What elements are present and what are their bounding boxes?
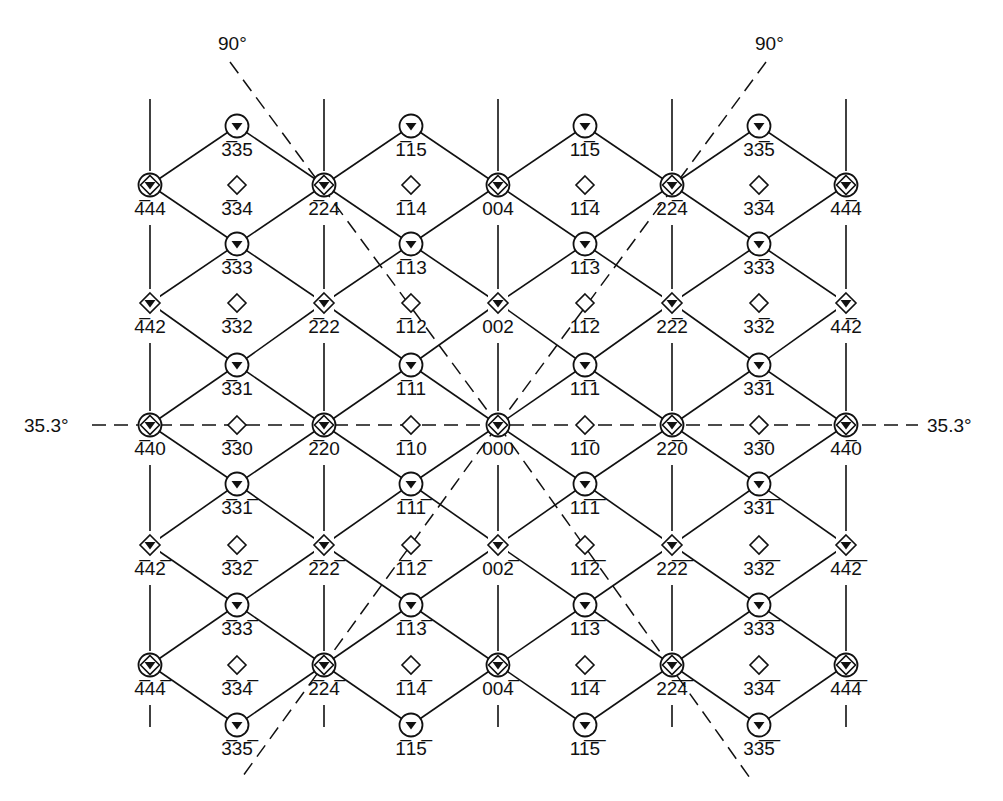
- spot-circle-triangle: [226, 473, 249, 496]
- diamond-icon: [228, 416, 246, 434]
- spot-double-ring: [487, 174, 510, 197]
- miller-index-label: 1̅11̅: [396, 497, 432, 518]
- miller-index-label: 33̅1: [743, 378, 775, 399]
- spot-open-diamond: [576, 416, 594, 434]
- spot-open-diamond: [402, 294, 420, 312]
- miller-index-label: 3̅32̅: [221, 558, 259, 579]
- spot-open-diamond: [750, 536, 768, 554]
- miller-index-label: 1̅12̅: [395, 558, 433, 579]
- spot-double-ring: [487, 414, 510, 437]
- spot-open-diamond: [402, 536, 420, 554]
- spot-open-diamond: [402, 656, 420, 674]
- miller-index-label: 1̅14̅: [395, 678, 433, 699]
- spot-circle-triangle: [748, 473, 771, 496]
- diamond-icon: [750, 176, 768, 194]
- spot-circle-triangle: [574, 115, 597, 138]
- miller-index-label: 000: [482, 438, 514, 459]
- miller-index-label: 11̅4̅: [570, 678, 606, 699]
- miller-index-label: 3̅33: [221, 257, 253, 278]
- spot-circle-triangle: [574, 714, 597, 737]
- miller-index-label: 11̅3: [570, 257, 600, 278]
- miller-index-label: 33̅5̅: [743, 738, 781, 759]
- spot-circle-triangle: [748, 115, 771, 138]
- spot-double-ring: [835, 414, 858, 437]
- miller-index-label: 11̅4: [570, 198, 601, 219]
- miller-index-label: 44̅0: [830, 438, 862, 459]
- miller-index-label: 2̅22: [308, 316, 340, 337]
- miller-index-label: 33̅1̅: [743, 497, 781, 518]
- miller-index-label: 1̅12: [395, 316, 427, 337]
- miller-index-label: 11̅5: [570, 139, 600, 160]
- spot-open-diamond: [750, 294, 768, 312]
- diamond-icon: [750, 294, 768, 312]
- spot-circle-triangle: [748, 594, 771, 617]
- spot-double-ring: [661, 174, 684, 197]
- spot-open-diamond: [228, 416, 246, 434]
- spot-open-diamond: [576, 176, 594, 194]
- miller-index-label: 33̅3̅: [743, 618, 781, 639]
- miller-index-label: 1̅15̅: [395, 738, 433, 759]
- spot-circle-triangle: [400, 354, 423, 377]
- spot-circle-triangle: [226, 594, 249, 617]
- miller-index-label: 11̅0: [570, 438, 600, 459]
- spot-open-diamond: [402, 416, 420, 434]
- diag-90-topright: [498, 62, 766, 425]
- spot-circle-triangle: [226, 354, 249, 377]
- miller-index-label: 33̅5: [743, 139, 775, 160]
- diamond-icon: [576, 416, 594, 434]
- miller-index-label: 3̅33̅: [221, 618, 259, 639]
- diamond-icon: [402, 416, 420, 434]
- miller-index-label: 33̅4̅: [743, 678, 781, 699]
- spot-circle-triangle: [226, 714, 249, 737]
- miller-index-label: 002̅: [482, 558, 520, 579]
- diamond-icon: [402, 536, 420, 554]
- diamond-icon: [750, 536, 768, 554]
- miller-index-label: 11̅1: [570, 378, 600, 399]
- spot-double-ring: [661, 654, 684, 677]
- miller-index-label: 44̅4̅: [830, 678, 868, 699]
- spot-circle-triangle: [748, 354, 771, 377]
- miller-index-label: 22̅4: [656, 198, 688, 219]
- spot-double-ring: [313, 654, 336, 677]
- spot-open-diamond: [750, 416, 768, 434]
- spot-circle-triangle: [748, 233, 771, 256]
- spot-open-diamond: [228, 176, 246, 194]
- spot-circle-triangle: [400, 594, 423, 617]
- miller-index-label: 3̅32: [221, 316, 253, 337]
- miller-index-label: 1̅10: [395, 438, 427, 459]
- spot-diamond-triangle: [314, 293, 334, 313]
- miller-index-label: 2̅24̅: [308, 678, 346, 699]
- spot-double-ring: [313, 414, 336, 437]
- miller-index-label: 11̅2: [570, 316, 600, 337]
- miller-index-label: 4̅44: [134, 198, 166, 219]
- spot-open-diamond: [402, 176, 420, 194]
- miller-index-label: 002: [482, 316, 514, 337]
- spot-diamond-triangle: [488, 293, 508, 313]
- diag-90-topleft: [230, 62, 498, 425]
- spot-diamond-triangle: [140, 535, 160, 555]
- diamond-icon: [750, 416, 768, 434]
- spot-double-ring: [139, 174, 162, 197]
- miller-index-label: 44̅2: [830, 316, 862, 337]
- spot-diamond-triangle: [662, 293, 682, 313]
- spot-circle-triangle: [574, 473, 597, 496]
- diamond-icon: [576, 294, 594, 312]
- angle-label-left: 35.3°: [24, 415, 69, 436]
- spot-circle-triangle: [574, 594, 597, 617]
- spot-double-ring: [487, 654, 510, 677]
- miller-index-label: 33̅4: [743, 198, 775, 219]
- spot-open-diamond: [750, 656, 768, 674]
- miller-index-label: 11̅1̅: [570, 497, 606, 518]
- miller-index-label: 3̅35̅: [221, 738, 259, 759]
- diamond-icon: [576, 656, 594, 674]
- spot-circle-triangle: [226, 115, 249, 138]
- miller-index-label: 2̅22̅: [308, 558, 346, 579]
- angle-label-top-right: 90°: [755, 33, 784, 54]
- spot-diamond-triangle: [314, 535, 334, 555]
- spot-double-ring: [835, 174, 858, 197]
- miller-index-label: 1̅13̅: [395, 618, 433, 639]
- diamond-icon: [402, 656, 420, 674]
- spot-open-diamond: [228, 656, 246, 674]
- diamond-icon: [228, 536, 246, 554]
- spot-diamond-triangle: [836, 293, 856, 313]
